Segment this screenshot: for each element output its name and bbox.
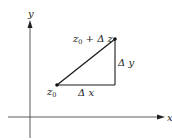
point-z0-plus-dz: [113, 37, 117, 41]
y-axis-arrow-icon: [28, 20, 33, 28]
point-z0: [55, 83, 59, 87]
hypotenuse-dz: [57, 39, 115, 85]
diagram-canvas: y x z0 + Δ z Δ y z0 Δ x: [0, 0, 172, 140]
label-z0-plus-dz: z0 + Δ z: [72, 33, 114, 46]
diagram-svg: y x z0 + Δ z Δ y z0 Δ x: [0, 0, 172, 140]
x-axis-label: x: [167, 112, 172, 123]
label-dy: Δ y: [117, 57, 134, 68]
label-dx: Δ x: [77, 87, 94, 98]
label-z0: z0: [46, 86, 56, 99]
label-z0-sub: 0: [52, 91, 56, 99]
x-axis-arrow-icon: [157, 115, 165, 120]
y-axis-label: y: [27, 8, 34, 19]
label-z0-plus-dz-suffix: + Δ z: [82, 33, 113, 44]
